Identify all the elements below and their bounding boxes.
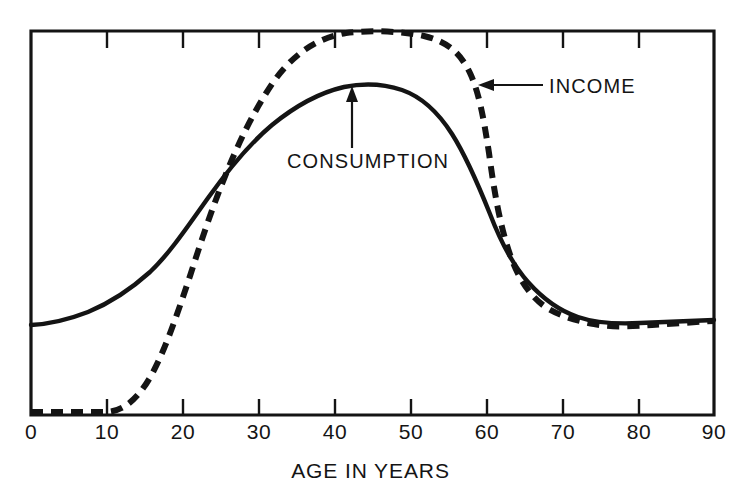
x-tick-label-90: 90 xyxy=(702,420,726,444)
income-series-label: INCOME xyxy=(549,75,636,98)
x-tick-label-80: 80 xyxy=(627,420,651,444)
x-tick-label-40: 40 xyxy=(323,420,347,444)
x-tick-label-70: 70 xyxy=(551,420,575,444)
x-tick-label-20: 20 xyxy=(171,420,195,444)
life-cycle-chart-figure: 0 10 20 30 40 50 60 70 80 90 INCOME CONS… xyxy=(0,0,741,499)
x-tick-label-50: 50 xyxy=(399,420,423,444)
consumption-arrow-annotation xyxy=(346,86,358,148)
x-tick-label-60: 60 xyxy=(475,420,499,444)
consumption-series-label: CONSUMPTION xyxy=(287,150,449,173)
x-axis-ticks-bottom xyxy=(107,399,639,415)
income-arrow-annotation xyxy=(478,79,543,91)
consumption-series-curve xyxy=(31,85,714,325)
x-axis-title: AGE IN YEARS xyxy=(0,459,741,483)
x-tick-label-0: 0 xyxy=(25,420,37,444)
x-tick-label-10: 10 xyxy=(95,420,119,444)
x-tick-label-30: 30 xyxy=(247,420,271,444)
